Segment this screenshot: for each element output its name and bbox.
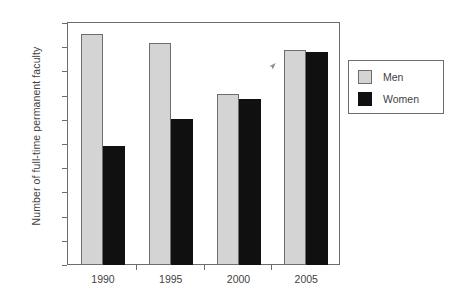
bar-men-2005[interactable] <box>284 50 306 265</box>
bar-men-2000[interactable] <box>217 94 239 265</box>
bar-men-1990[interactable] <box>81 34 103 265</box>
legend-item-label: Men <box>383 71 403 83</box>
legend-item-women[interactable]: Women <box>358 92 419 106</box>
x-tick-label: 1990 <box>73 273 133 285</box>
bar-women-2005[interactable] <box>306 52 328 265</box>
bar-group <box>149 23 193 265</box>
bar-group <box>217 23 261 265</box>
chart-legend: MenWomen <box>348 60 444 114</box>
women-swatch <box>358 92 372 106</box>
plot-area <box>68 23 339 265</box>
x-tick-mark <box>204 265 205 270</box>
y-tick-mark <box>62 265 67 266</box>
men-swatch <box>358 70 372 84</box>
bar-group <box>81 23 125 265</box>
legend-item-label: Women <box>383 93 419 105</box>
bar-women-2000[interactable] <box>239 99 261 265</box>
bar-women-1995[interactable] <box>171 119 193 265</box>
bar-women-1990[interactable] <box>103 146 125 265</box>
bar-men-1995[interactable] <box>149 43 171 265</box>
bar-chart: Number of full-time permanent faculty 05… <box>0 0 458 302</box>
y-axis-title: Number of full-time permanent faculty <box>30 16 42 256</box>
x-tick-label: 1995 <box>141 273 201 285</box>
x-tick-mark <box>271 265 272 270</box>
x-tick-mark <box>136 265 137 270</box>
legend-item-men[interactable]: Men <box>358 70 403 84</box>
x-tick-label: 2000 <box>209 273 269 285</box>
bar-group <box>284 23 328 265</box>
arrow-cursor-icon <box>268 62 277 71</box>
x-tick-label: 2005 <box>276 273 336 285</box>
